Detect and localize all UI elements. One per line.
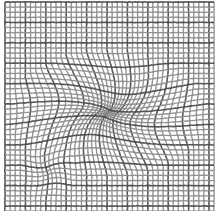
mesh-line [10, 2, 11, 211]
warped-grid-mesh [0, 0, 217, 211]
mesh-image-container [0, 0, 217, 211]
